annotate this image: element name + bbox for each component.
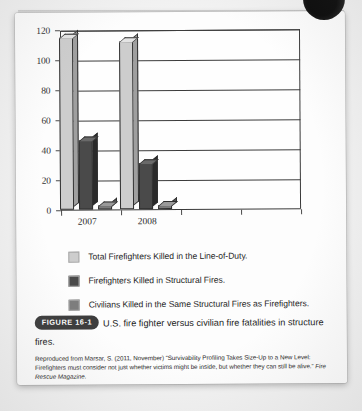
x-axis-category-label: 2008 [138,216,157,226]
bar-top [158,201,178,206]
bar [79,141,93,210]
scanned-page-image: 020406080100120 20072008 Total Firefight… [0,0,362,411]
bar-group [119,30,172,209]
x-axis-tick-mark [121,210,122,215]
legend-item: Total Firefighters Killed in the Line-of… [68,243,336,269]
bar-side [133,33,139,205]
bar [139,163,153,210]
chart-legend: Total Firefighters Killed in the Line-of… [68,243,336,317]
y-axis-tick-label: 120 [36,26,50,36]
y-axis-tick-label: 20 [42,176,51,186]
bar-face [119,41,134,209]
y-axis-tick-label: 80 [41,86,50,96]
bar-face [139,163,153,210]
x-axis-category-label: 2007 [78,217,97,227]
bar-face [79,141,93,210]
legend-swatch-icon [68,275,79,286]
legend-item-label: Firefighters Killed in Structural Fires. [88,275,225,286]
plot-area [60,29,301,210]
figure-caption-block: FIGURE 16-1U.S. fire fighter versus civi… [35,311,331,381]
y-axis-tick-label: 40 [42,146,51,156]
figure-credit-text: Reproduced from Marsar, S. (2011, Novemb… [35,352,331,381]
x-axis-tick-mark [241,210,242,215]
bar [119,41,134,209]
bar-face [59,37,74,210]
y-axis-tick-label: 60 [41,116,50,126]
bar-top [98,201,118,206]
bar-side [93,133,98,206]
credit-line-2: Firefighters must consider not just whet… [35,363,295,372]
y-axis-tick-label: 100 [36,56,50,66]
bar [158,205,172,210]
y-axis: 020406080100120 [25,31,56,211]
x-axis-tick-mark [301,209,302,214]
bar [98,205,112,210]
bar-chart: 020406080100120 20072008 [25,29,338,241]
x-axis-tick-mark [61,211,62,216]
bar-group [59,30,112,209]
legend-swatch-icon [69,299,80,310]
bar-side [73,29,79,205]
legend-item-label: Civilians Killed in the Same Structural … [89,298,309,309]
y-axis-tick-label: 0 [46,206,51,216]
bar [59,37,74,210]
legend-item: Firefighters Killed in Structural Fires. [68,267,336,293]
legend-item-label: Total Firefighters Killed in the Line-of… [88,251,247,262]
credit-line-1: Reproduced from Marsar, S. (2011, Novemb… [35,353,311,362]
textbook-page-sheet: 020406080100120 20072008 Total Firefight… [15,11,347,385]
figure-number-badge: FIGURE 16-1 [35,316,99,330]
credit-line-3: alive.” [297,362,315,369]
legend-swatch-icon [68,251,79,262]
x-axis-tick-mark [181,210,182,215]
